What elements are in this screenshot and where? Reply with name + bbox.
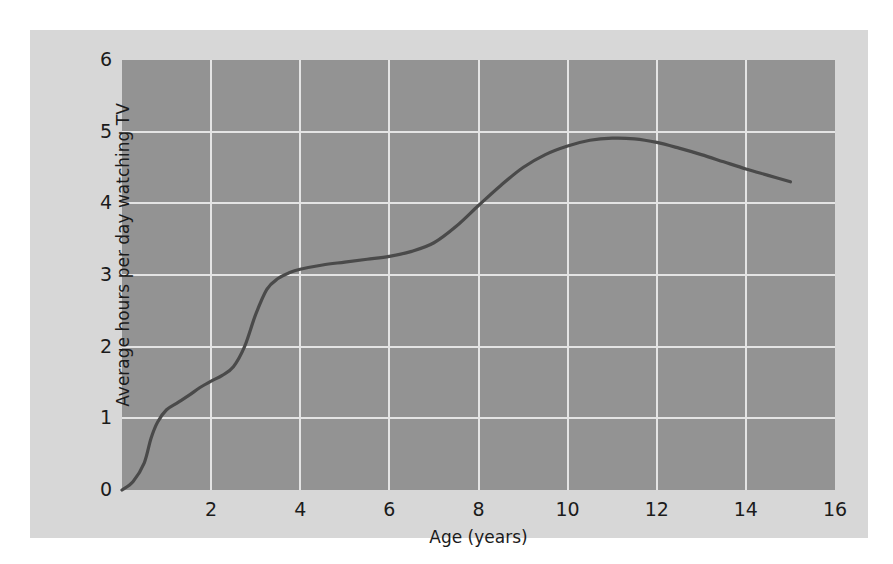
y-tick-label: 4 xyxy=(78,193,112,212)
x-tick-label: 12 xyxy=(627,500,687,519)
y-axis-ticks: 0123456 xyxy=(72,60,112,490)
x-tick-label: 14 xyxy=(716,500,776,519)
line-path xyxy=(122,138,790,490)
y-tick-label: 6 xyxy=(78,50,112,69)
x-tick-label: 2 xyxy=(181,500,241,519)
x-axis-ticks: 246810121416 xyxy=(122,500,835,526)
y-tick-label: 2 xyxy=(78,337,112,356)
x-tick-label: 4 xyxy=(270,500,330,519)
x-tick-label: 10 xyxy=(538,500,598,519)
y-tick-label: 5 xyxy=(78,122,112,141)
plot-area xyxy=(122,60,835,490)
y-tick-label: 3 xyxy=(78,265,112,284)
x-axis-label: Age (years) xyxy=(122,527,835,547)
x-tick-label: 8 xyxy=(449,500,509,519)
chart-figure: 0123456 246810121416 Age (years) Average… xyxy=(30,30,868,538)
y-tick-label: 0 xyxy=(78,480,112,499)
x-tick-label: 6 xyxy=(359,500,419,519)
x-tick-label: 16 xyxy=(805,500,865,519)
y-axis-label: Average hours per day watching TV xyxy=(113,40,133,470)
line-series-tv-hours xyxy=(122,60,835,490)
y-tick-label: 1 xyxy=(78,408,112,427)
